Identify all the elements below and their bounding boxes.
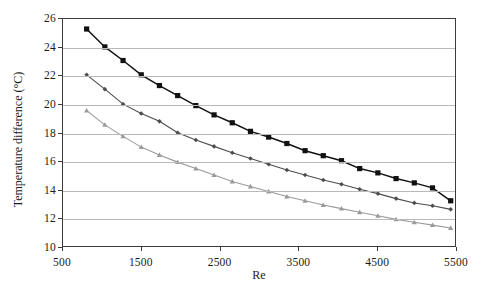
gridline [63,162,455,163]
x-tick-mark [456,247,457,251]
x-tick-label: 5500 [444,256,468,268]
y-tick-label: 24 [16,41,56,53]
x-tick-mark [141,247,142,251]
x-tick-label: 4500 [365,256,389,268]
y-tick-label: 18 [16,127,56,139]
x-tick-mark [377,247,378,251]
gridline [63,48,455,49]
gridline [63,105,455,106]
x-tick-mark [220,247,221,251]
y-tick-label: 26 [16,12,56,24]
plot-area [62,18,456,247]
y-tick-label: 22 [16,69,56,81]
chart-figure: Temperature difference (°C) 101214161820… [0,0,482,295]
gridlines [63,19,455,246]
x-tick-label: 500 [53,256,71,268]
gridline [63,191,455,192]
y-tick-label: 20 [16,98,56,110]
x-tick-label: 3500 [286,256,310,268]
x-tick-label: 1500 [129,256,153,268]
x-axis-title: Re [62,268,456,283]
x-tick-label: 2500 [208,256,232,268]
y-tick-label: 14 [16,184,56,196]
y-tick-label: 10 [16,241,56,253]
y-tick-label: 12 [16,212,56,224]
gridline [63,76,455,77]
gridline [63,219,455,220]
x-tick-mark [298,247,299,251]
gridline [63,134,455,135]
y-tick-label: 16 [16,155,56,167]
x-tick-mark [62,247,63,251]
